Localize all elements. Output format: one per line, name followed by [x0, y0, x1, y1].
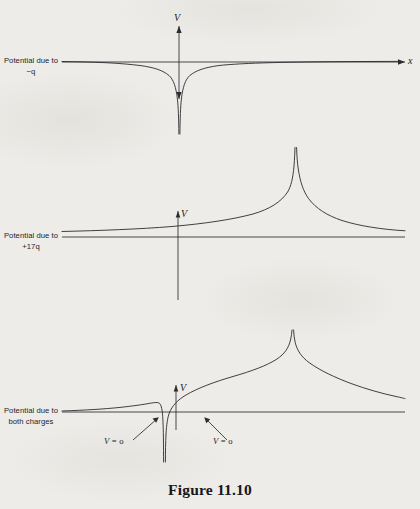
v-axis-arrowhead-panel3 — [174, 385, 179, 392]
curve-both-left-branch — [62, 402, 164, 462]
panel-label-minus-q-line2: −q — [0, 67, 62, 78]
figure-drawing — [0, 0, 420, 509]
figure-caption: Figure 11.10 — [0, 481, 420, 499]
panel-label-plus-17q-line1: Potential due to — [0, 231, 62, 242]
annotation-zero-left: V = o — [104, 436, 124, 446]
panel-label-minus-q: Potential due to −q — [0, 56, 62, 77]
v-axis-label-panel2: V — [181, 208, 187, 219]
v-axis-arrowhead-up-panel1 — [176, 26, 181, 33]
panel-label-both-charges: Potential due to both charges — [0, 406, 62, 427]
v-axis-label-panel1: V — [174, 12, 180, 23]
panel-label-both-charges-line1: Potential due to — [0, 406, 62, 417]
curve-both-right-tail — [292, 399, 405, 412]
panel-potential-plus-17q — [62, 148, 405, 301]
panel-label-plus-17q-line2: +17q — [0, 242, 62, 253]
x-axis-label-panel1: x — [408, 55, 412, 66]
panel-potential-minus-q — [62, 26, 405, 134]
figure-page: Potential due to −q V x Potential due to… — [0, 0, 420, 509]
curve-plus-17q — [62, 148, 405, 232]
callout-arrow-zero-left — [133, 418, 158, 440]
panel-label-plus-17q: Potential due to +17q — [0, 231, 62, 252]
curve-both-right-branch — [165, 330, 405, 462]
panel-label-minus-q-line1: Potential due to — [0, 56, 62, 67]
annotation-zero-left-value: = o — [109, 436, 123, 446]
panel-label-both-charges-line2: both charges — [0, 417, 62, 428]
curve-minus-q — [62, 61, 398, 134]
annotation-zero-right-value: = o — [218, 436, 232, 446]
v-axis-arrowhead-panel2 — [176, 211, 181, 218]
v-axis-label-panel3: V — [180, 382, 186, 393]
x-axis-arrowhead-panel1 — [398, 59, 405, 65]
annotation-zero-right: V = o — [213, 436, 233, 446]
